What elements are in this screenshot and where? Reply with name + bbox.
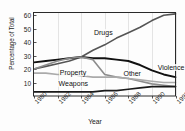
- series-label-other: Other: [122, 70, 142, 77]
- series-label-weapons: Weapons: [58, 80, 89, 87]
- series-label-property: Property: [59, 69, 87, 76]
- series-lines: [34, 14, 176, 92]
- series-label-violence: Violence: [157, 64, 185, 71]
- series-label-drugs: Drugs: [93, 29, 114, 36]
- series-line-weapons: [34, 87, 176, 92]
- line-chart: Percentage of Total Year 102030405060 19…: [0, 0, 185, 131]
